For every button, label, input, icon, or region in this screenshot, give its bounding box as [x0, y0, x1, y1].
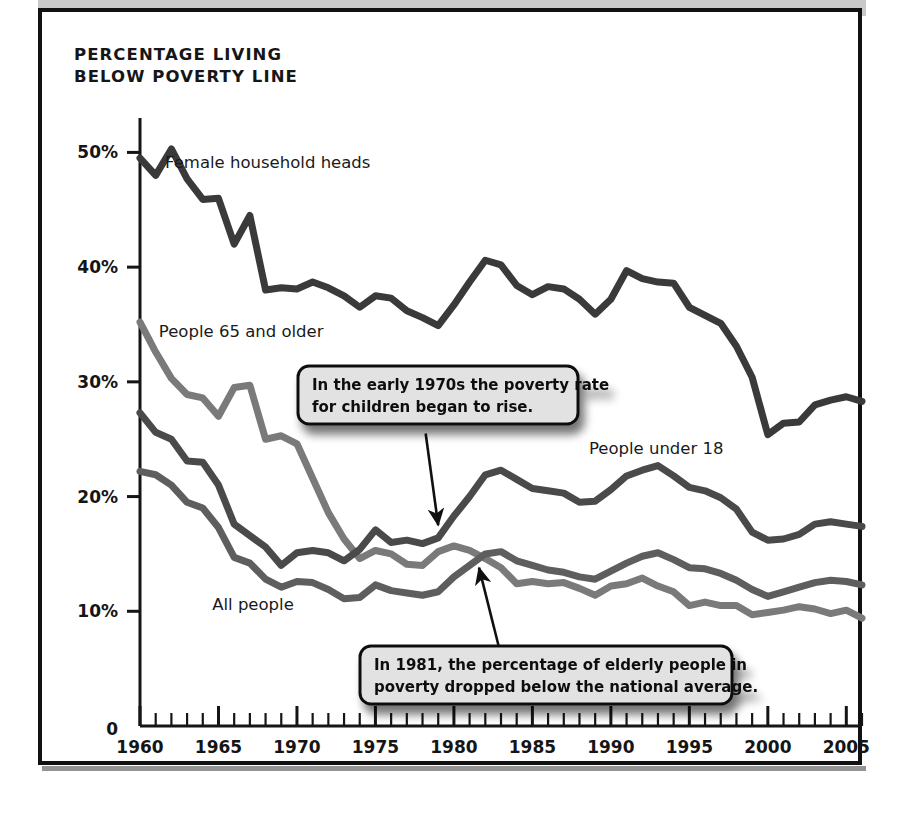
series-label: People 65 and older	[159, 322, 324, 341]
series-label: All people	[212, 595, 294, 614]
poverty-chart-figure: PERCENTAGE LIVING BELOW POVERTY LINE	[0, 0, 903, 827]
y-tick-label: 50%	[77, 142, 118, 162]
x-tick-label: 2000	[744, 737, 791, 757]
y-tick-label: 40%	[77, 257, 118, 277]
x-axis-ticks	[140, 706, 862, 726]
y-tick-label: 30%	[77, 372, 118, 392]
x-tick-label: 1990	[587, 737, 634, 757]
annotation-text-line: poverty dropped below the national avera…	[374, 678, 758, 696]
series-label: Female household heads	[165, 153, 370, 172]
x-tick-label: 1985	[509, 737, 556, 757]
x-tick-label: 1965	[195, 737, 242, 757]
annotation-text-line: In the early 1970s the poverty rate	[312, 376, 609, 394]
x-tick-label: 1960	[116, 737, 163, 757]
series-label: People under 18	[589, 439, 724, 458]
x-tick-label: 1975	[352, 737, 399, 757]
x-axis-tick-labels: 1960196519701975198019851990199520002005	[116, 737, 870, 757]
x-tick-label: 1970	[273, 737, 320, 757]
x-tick-label: 1980	[430, 737, 477, 757]
chart-plot: 010%20%30%40%50% 19601965197019751980198…	[0, 0, 903, 827]
annotation-arrow	[426, 433, 439, 525]
y-tick-label: 20%	[77, 487, 118, 507]
x-tick-label: 1995	[666, 737, 713, 757]
annotation-callout: In the early 1970s the poverty ratefor c…	[298, 366, 609, 424]
y-axis-tick-labels: 010%20%30%40%50%	[77, 142, 118, 739]
y-axis-ticks	[127, 152, 140, 611]
x-tick-label: 2005	[823, 737, 870, 757]
annotation-callout: In 1981, the percentage of elderly peopl…	[360, 646, 758, 704]
annotation-text-line: In 1981, the percentage of elderly peopl…	[374, 656, 747, 674]
series-line	[140, 413, 862, 566]
annotation-text-line: for children began to rise.	[312, 398, 533, 416]
y-tick-label: 10%	[77, 601, 118, 621]
y-tick-label: 0	[106, 719, 118, 739]
